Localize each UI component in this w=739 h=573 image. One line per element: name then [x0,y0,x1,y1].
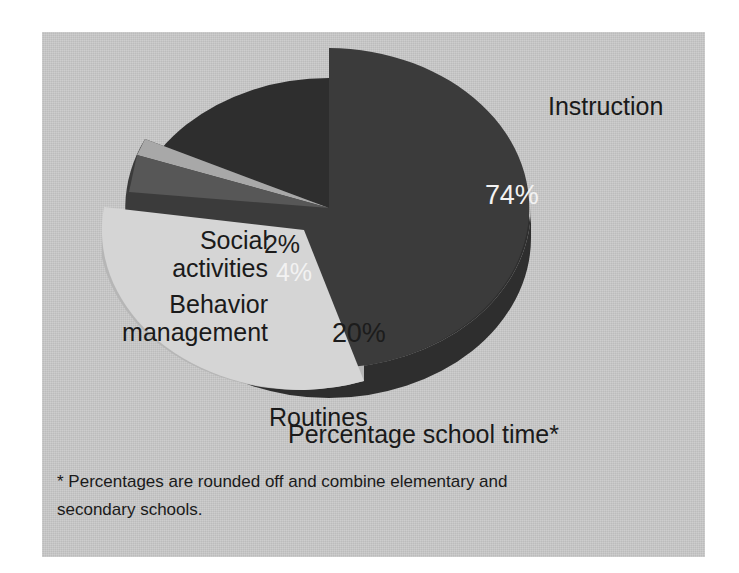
category-label-behavior-line2: management [99,318,268,346]
category-label-instruction-text: Instruction [548,92,663,120]
chart-title: Percentage school time* [288,420,559,449]
footnote-line-1: * Percentages are rounded off and combin… [57,468,577,496]
footnote-line-2: secondary schools. [57,496,577,524]
chart-footnote: * Percentages are rounded off and combin… [57,468,577,523]
value-label-instruction: 74% [485,182,538,209]
value-label-behavior-management: 4% [276,260,312,285]
category-label-instruction: Instruction [548,92,663,120]
category-label-behavior-management: Behavior management [99,290,268,346]
category-label-social-line1: Social [150,226,268,254]
category-label-behavior-line1: Behavior [99,290,268,318]
value-label-social-activities: 2% [264,232,300,257]
value-label-routines: 20% [332,320,385,347]
figure-root: 74% 20% 4% 2% Instruction Social activit… [0,0,739,573]
category-label-social-activities: Social activities [150,226,268,282]
category-label-social-line2: activities [150,254,268,282]
